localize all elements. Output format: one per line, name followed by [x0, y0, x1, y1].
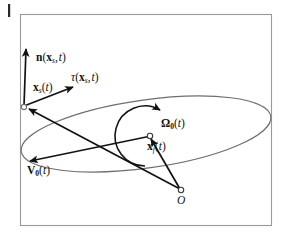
glyph-O: O — [177, 194, 185, 206]
normal-vector — [24, 49, 26, 106]
label-angular-velocity: Ω0(t) — [161, 118, 185, 131]
glyph-rparen-xs: ) — [49, 81, 53, 93]
label-point-xs: xs(t) — [33, 82, 53, 95]
label-origin: O — [177, 195, 185, 207]
label-normal-vector: n(xs, t) — [36, 52, 66, 65]
glyph-rparen-n: ) — [62, 51, 66, 63]
label-point-xf: xf(t) — [147, 141, 166, 154]
glyph-comma-tau: , — [88, 71, 91, 83]
glyph-comma-n: , — [55, 51, 58, 63]
velocity-vector — [30, 136, 151, 161]
point-marker-origin — [178, 187, 183, 192]
point-marker-xs — [21, 104, 26, 109]
fluid-domain-ellipse — [16, 83, 275, 185]
angular-velocity-arc — [115, 106, 160, 166]
point-marker-xf — [147, 133, 152, 138]
glyph-rparen-tau: ) — [95, 71, 99, 83]
glyph-omega: Ω — [161, 117, 170, 129]
label-tangent-vector: τ(xs, t) — [71, 72, 99, 85]
label-velocity-vector: V0(t) — [27, 165, 50, 178]
glyph-rparen-xf: ) — [162, 140, 166, 152]
glyph-rparen-omega: ) — [181, 117, 185, 129]
glyph-rparen-v: ) — [46, 164, 50, 176]
figure-frame — [21, 15, 272, 226]
margin-tick — [8, 4, 10, 17]
figure-page: n(xs, t) τ(xs, t) xs(t) Ω0(t) xf(t) V0(t… — [0, 0, 292, 239]
figure-canvas — [0, 0, 292, 239]
